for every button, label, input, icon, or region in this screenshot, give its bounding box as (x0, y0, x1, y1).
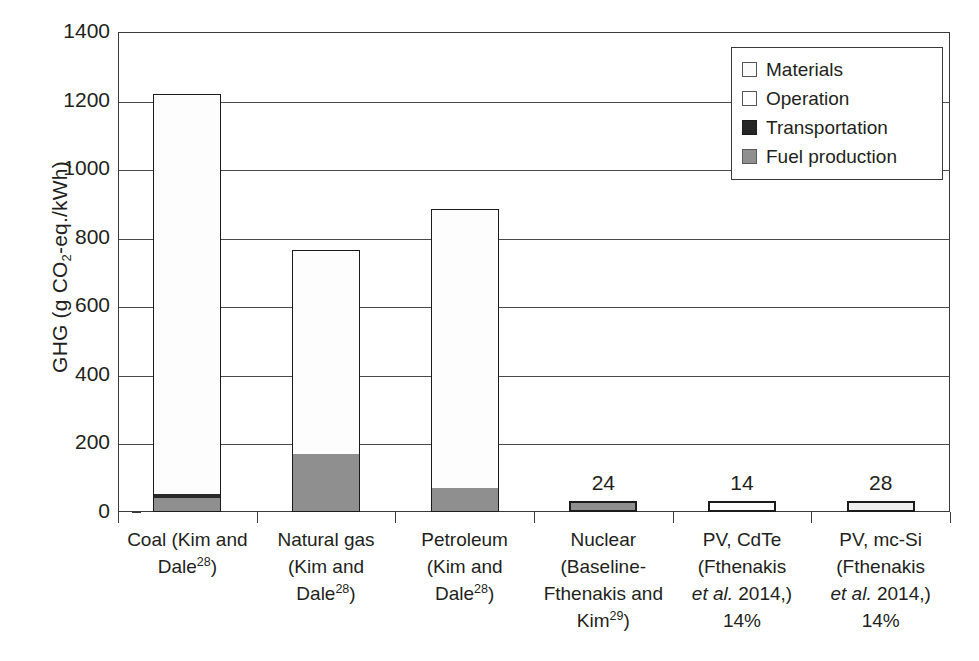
bar-stack (431, 209, 499, 512)
chart-legend: Materials Operation Transportation Fuel … (731, 47, 943, 180)
bar-segment-operation (847, 501, 915, 512)
x-axis-label-line: (Kim and (250, 553, 402, 580)
bar-segment-fuel-production (431, 488, 499, 512)
x-axis-label-line: 14% (666, 607, 818, 634)
x-axis-category-label: Coal (Kim andDale28) (111, 526, 263, 583)
bar-group[interactable] (153, 32, 221, 512)
y-axis-tick-label: 0 (34, 499, 110, 523)
x-axis-label-line: Dale28) (389, 580, 541, 610)
bar-stack (708, 501, 776, 512)
x-axis-label-superscript: 28 (197, 555, 211, 569)
bar-segment-fuel-production (292, 454, 360, 512)
x-axis-label-line: PV, CdTe (666, 526, 818, 553)
bar-group[interactable]: 24 (569, 32, 637, 512)
y-axis-tick-label: 1400 (34, 19, 110, 43)
x-axis-label-line: (Baseline- (527, 553, 679, 580)
fuel-production-swatch-icon (742, 149, 757, 164)
x-axis-tick-mark (950, 512, 951, 523)
x-axis-label-superscript: 28 (335, 582, 349, 596)
bar-segment-operation (153, 94, 221, 494)
bar-segment-operation (292, 250, 360, 454)
legend-label-transportation: Transportation (766, 117, 888, 139)
y-axis-tick-label: 600 (34, 293, 110, 317)
x-axis-label-line: Dale28) (250, 580, 402, 610)
legend-item-materials: Materials (742, 55, 932, 84)
bar-segment-fuel-production (569, 501, 637, 512)
bar-group[interactable] (292, 32, 360, 512)
y-axis-tick-labels: 1400120010008006004002000 (22, 32, 110, 512)
y-axis-tick-label: 400 (34, 362, 110, 386)
legend-label-operation: Operation (766, 88, 849, 110)
x-axis-label-line: Nuclear (527, 526, 679, 553)
operation-swatch-icon (742, 91, 757, 106)
x-axis-label-line: PV, mc-Si (805, 526, 957, 553)
bar-stack (569, 501, 637, 512)
transportation-swatch-icon (742, 120, 757, 135)
legend-item-transportation: Transportation (742, 113, 932, 142)
y-axis-tick-label: 1200 (34, 88, 110, 112)
x-axis-label-line: (Fthenakis (805, 553, 957, 580)
x-axis-tick-mark (534, 512, 535, 523)
bar-stack (292, 250, 360, 512)
x-axis-label-line: Fthenakis and (527, 580, 679, 607)
chart-figure: GHG (g CO2-eq./kWh) 14001200100080060040… (0, 0, 979, 661)
x-axis-label-line: Kim29) (527, 607, 679, 637)
bar-value-label: 24 (592, 471, 615, 495)
materials-swatch-icon (742, 62, 757, 77)
x-axis-label-line: (Fthenakis (666, 553, 818, 580)
bar-segment-operation (708, 501, 776, 512)
x-axis-label-line: Coal (Kim and (111, 526, 263, 553)
x-axis-category-label: Petroleum(Kim andDale28) (389, 526, 541, 610)
x-axis-tick-mark (673, 512, 674, 523)
x-axis-label-line: Dale28) (111, 553, 263, 583)
y-axis-tick-label: 800 (34, 225, 110, 249)
x-axis-category-labels: Coal (Kim andDale28)Natural gas(Kim andD… (118, 526, 950, 658)
x-axis-category-label: Nuclear(Baseline-Fthenakis andKim29) (527, 526, 679, 637)
bar-segment-operation (431, 209, 499, 488)
x-axis-tick-mark (118, 512, 119, 523)
x-axis-label-line: et al. 2014,) (666, 580, 818, 607)
bar-stack (153, 94, 221, 512)
x-axis-label-line: (Kim and (389, 553, 541, 580)
x-axis-label-line: Natural gas (250, 526, 402, 553)
x-axis-label-superscript: 28 (474, 582, 488, 596)
legend-item-operation: Operation (742, 84, 932, 113)
y-axis-tick-label: 1000 (34, 156, 110, 180)
x-axis-tick-mark (395, 512, 396, 523)
legend-label-materials: Materials (766, 59, 843, 81)
x-axis-label-superscript: 29 (610, 609, 624, 623)
x-axis-category-label: PV, CdTe(Fthenakiset al. 2014,)14% (666, 526, 818, 634)
x-axis-label-italic: et al. (830, 583, 871, 604)
bar-segment-fuel-production (153, 498, 221, 512)
x-axis-label-line: et al. 2014,) (805, 580, 957, 607)
bar-stack (847, 501, 915, 512)
x-axis-tick-mark (257, 512, 258, 523)
x-axis-category-label: PV, mc-Si(Fthenakiset al. 2014,)14% (805, 526, 957, 634)
legend-item-fuel-production: Fuel production (742, 142, 932, 171)
x-axis-label-italic: et al. (692, 583, 733, 604)
y-axis-tick-label: 200 (34, 430, 110, 454)
legend-label-fuel-production: Fuel production (766, 146, 897, 168)
bar-value-label: 28 (869, 471, 892, 495)
x-axis-label-line: Petroleum (389, 526, 541, 553)
x-axis-label-line: 14% (805, 607, 957, 634)
x-axis-tick-mark (811, 512, 812, 523)
x-axis-ticks (118, 512, 950, 524)
bar-value-label: 14 (730, 471, 753, 495)
x-axis-category-label: Natural gas(Kim andDale28) (250, 526, 402, 610)
bar-group[interactable] (431, 32, 499, 512)
